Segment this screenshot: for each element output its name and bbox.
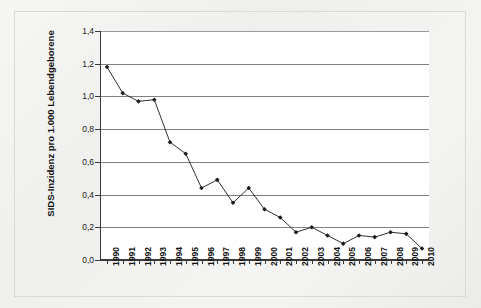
y-axis-tick-labels: 0,00,20,40,60,81,01,21,4 bbox=[58, 31, 94, 260]
data-point-1993 bbox=[152, 97, 157, 102]
x-tick-label-1995: 1995 bbox=[190, 247, 200, 266]
x-tick-label-2010: 2010 bbox=[426, 247, 436, 266]
y-tick-label-1-4: 1,4 bbox=[82, 26, 94, 36]
y-tick-label-1-2: 1,2 bbox=[82, 59, 94, 69]
x-tick-mark-1994 bbox=[170, 260, 171, 264]
x-tick-label-1998: 1998 bbox=[237, 247, 247, 266]
x-tick-mark-1999 bbox=[249, 260, 250, 264]
x-tick-mark-2007 bbox=[375, 260, 376, 264]
y-tick-label-0-8: 0,8 bbox=[82, 124, 94, 134]
y-axis-title: SIDS-Inzidenz pro 1.000 Lebendgeborene bbox=[45, 14, 56, 234]
x-tick-label-2001: 2001 bbox=[284, 247, 294, 266]
x-tick-label-2004: 2004 bbox=[332, 247, 342, 266]
x-tick-mark-1991 bbox=[123, 260, 124, 264]
x-tick-label-1994: 1994 bbox=[174, 247, 184, 266]
data-point-2006 bbox=[357, 233, 362, 238]
x-axis-tick-labels: 1990199119921993199419951996199719981999… bbox=[100, 266, 429, 306]
data-point-2008 bbox=[388, 230, 393, 235]
x-tick-label-1992: 1992 bbox=[143, 247, 153, 266]
x-tick-label-2006: 2006 bbox=[363, 247, 373, 266]
x-tick-label-2009: 2009 bbox=[410, 247, 420, 266]
y-tick-label-0-6: 0,6 bbox=[82, 157, 94, 167]
x-tick-label-1997: 1997 bbox=[221, 247, 231, 266]
x-tick-mark-2005 bbox=[343, 260, 344, 264]
x-tick-label-2005: 2005 bbox=[347, 247, 357, 266]
x-tick-label-1999: 1999 bbox=[253, 247, 263, 266]
x-tick-mark-1997 bbox=[217, 260, 218, 264]
x-tick-mark-1990 bbox=[107, 260, 108, 264]
x-tick-label-1990: 1990 bbox=[111, 247, 121, 266]
y-tick-label-1-0: 1,0 bbox=[82, 91, 94, 101]
x-tick-label-1993: 1993 bbox=[158, 247, 168, 266]
x-tick-label-2003: 2003 bbox=[316, 247, 326, 266]
y-tick-label-0-2: 0,2 bbox=[82, 222, 94, 232]
x-tick-mark-2008 bbox=[391, 260, 392, 264]
x-tick-mark-2006 bbox=[359, 260, 360, 264]
x-tick-mark-1992 bbox=[139, 260, 140, 264]
x-tick-label-2008: 2008 bbox=[395, 247, 405, 266]
x-tick-label-2000: 2000 bbox=[269, 247, 279, 266]
chart-figure: SIDS-Inzidenz pro 1.000 Lebendgeborene 0… bbox=[0, 0, 481, 308]
x-tick-mark-1993 bbox=[154, 260, 155, 264]
data-point-2005 bbox=[341, 241, 346, 246]
x-tick-mark-1995 bbox=[186, 260, 187, 264]
x-tick-label-2007: 2007 bbox=[379, 247, 389, 266]
plot-area bbox=[100, 31, 429, 260]
y-tick-label-0-0: 0,0 bbox=[82, 255, 94, 265]
data-series-sids-inzidenz bbox=[100, 31, 429, 260]
x-tick-mark-1998 bbox=[233, 260, 234, 264]
x-tick-mark-2010 bbox=[422, 260, 423, 264]
x-tick-mark-2001 bbox=[280, 260, 281, 264]
data-point-2003 bbox=[309, 225, 314, 230]
y-tick-label-0-4: 0,4 bbox=[82, 190, 94, 200]
data-point-2004 bbox=[325, 233, 330, 238]
data-point-2007 bbox=[372, 235, 377, 240]
x-tick-label-1996: 1996 bbox=[206, 247, 216, 266]
data-point-1992 bbox=[136, 99, 141, 104]
x-tick-mark-2004 bbox=[328, 260, 329, 264]
data-point-1991 bbox=[120, 91, 125, 96]
x-tick-label-2002: 2002 bbox=[300, 247, 310, 266]
x-tick-mark-1996 bbox=[202, 260, 203, 264]
x-tick-mark-2009 bbox=[406, 260, 407, 264]
x-tick-mark-2003 bbox=[312, 260, 313, 264]
data-point-1996 bbox=[199, 186, 204, 191]
x-tick-mark-2002 bbox=[296, 260, 297, 264]
series-line bbox=[107, 67, 422, 249]
x-tick-mark-2000 bbox=[265, 260, 266, 264]
x-tick-label-1991: 1991 bbox=[127, 247, 137, 266]
data-point-1990 bbox=[105, 65, 110, 70]
